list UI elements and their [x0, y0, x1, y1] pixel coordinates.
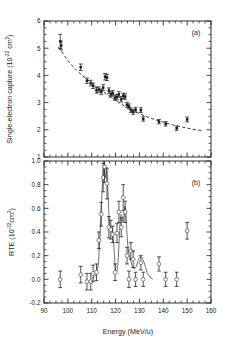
panel-a: 123456 — [37, 17, 211, 160]
data-point — [97, 238, 101, 242]
data-point — [113, 270, 117, 274]
data-point — [119, 225, 123, 229]
data-point — [95, 89, 98, 92]
panel-b-y-tick-label: 0.0 — [32, 276, 41, 283]
panel-b-y-tick-label: 0.4 — [32, 228, 41, 235]
data-point — [118, 93, 121, 96]
panel-a-y-axis-title: Single-electron capture (10-22 cm2) — [5, 34, 14, 144]
x-tick-label: 160 — [206, 307, 217, 314]
two-panel-scientific-plot: 123456 -0.20.00.20.40.60.81.090100110120… — [0, 0, 231, 343]
data-point — [105, 182, 109, 186]
panel-a-ylabel-tail: cm — [5, 39, 14, 51]
data-point — [117, 210, 121, 214]
data-point — [79, 273, 83, 277]
rte-data-point-group — [157, 257, 161, 271]
data-point — [121, 196, 125, 200]
figure-container: 123456 -0.20.00.20.40.60.81.090100110120… — [0, 0, 231, 343]
rte-data-point-group — [113, 264, 117, 281]
data-point — [128, 105, 131, 108]
data-point — [164, 123, 167, 126]
panel-a-y-tick-label: 3 — [37, 99, 41, 106]
panel-b-ylabel-tail: cm — [7, 213, 16, 223]
rte-data-point-group — [85, 273, 89, 290]
x-tick-label: 140 — [158, 307, 169, 314]
panel-a-data — [58, 34, 201, 130]
data-point — [86, 80, 89, 83]
rte-data-point-group — [185, 223, 189, 240]
panel-b-ylabel-close: ) — [7, 208, 16, 210]
data-point — [111, 92, 114, 95]
data-point — [125, 254, 129, 258]
data-point — [140, 109, 143, 112]
panel-b-ylabel-text: RTE (10 — [7, 229, 16, 256]
panel-a-label: (a) — [192, 29, 201, 37]
panel-b-y-tick-label: 0.6 — [32, 205, 41, 212]
capture-data-point-group — [107, 88, 111, 93]
panel-a-y-tick-label: 6 — [37, 17, 41, 24]
data-point — [131, 257, 135, 261]
x-axis-title: Energy (MeV/u) — [103, 327, 153, 336]
data-point — [142, 118, 145, 121]
rte-data-point-group — [91, 265, 95, 282]
data-point — [158, 120, 161, 123]
x-tick-label: 100 — [63, 307, 74, 314]
panel-a-frame — [44, 21, 211, 157]
x-tick-label: 120 — [110, 307, 121, 314]
panel-b-y-tick-label: -0.2 — [29, 299, 40, 306]
data-point — [175, 127, 178, 130]
capture-data-point-group — [79, 64, 83, 71]
panel-b-y-tick-label: 0.2 — [32, 252, 41, 259]
capture-fit-curve — [58, 47, 201, 131]
svg-text:RTE (10-22cm2): RTE (10-22cm2) — [7, 208, 16, 256]
panel-a-y-tick-label: 2 — [37, 126, 41, 133]
data-point — [164, 277, 168, 281]
data-point — [139, 261, 143, 265]
panel-b-y-tick-label: 1.0 — [32, 157, 41, 164]
data-point — [106, 76, 109, 79]
data-point — [111, 232, 115, 236]
x-tick-label: 130 — [134, 307, 145, 314]
data-point — [186, 118, 189, 121]
data-point — [102, 86, 105, 89]
data-point — [185, 229, 189, 233]
rte-data-point-group — [99, 202, 103, 226]
rte-data-point-group — [164, 272, 168, 286]
rte-data-point-group — [58, 271, 62, 288]
rte-data-point-group — [175, 272, 179, 286]
data-point — [79, 66, 82, 69]
capture-data-point-group — [141, 117, 145, 121]
panel-b-y-tick-label: 0.8 — [32, 181, 41, 188]
rte-data-point-group — [127, 271, 131, 288]
x-tick-label: 90 — [40, 307, 48, 314]
data-point — [92, 84, 95, 87]
data-point — [134, 108, 137, 111]
x-tick-label: 110 — [87, 307, 98, 314]
data-point — [127, 277, 131, 281]
panel-a-ylabel-text: Single-electron capture (10 — [5, 57, 14, 143]
x-tick-label: 150 — [182, 307, 193, 314]
data-point — [124, 95, 127, 98]
panel-a-ylabel-close: ) — [5, 34, 14, 36]
data-point — [58, 277, 62, 281]
data-point — [134, 277, 138, 281]
panel-b-y-axis-title: RTE (10-22cm2) — [7, 208, 16, 256]
rte-data-point-group — [141, 272, 145, 286]
data-point — [95, 270, 99, 274]
capture-data-point-group — [101, 85, 105, 91]
panel-b-label: (b) — [192, 179, 201, 187]
rte-data-point-group — [79, 266, 83, 283]
data-point — [85, 280, 89, 284]
capture-data-point-group — [139, 108, 143, 113]
panel-b: -0.20.00.20.40.60.81.0901001101201301401… — [29, 152, 216, 314]
capture-data-point-group — [185, 117, 189, 122]
data-point — [157, 262, 161, 266]
rte-data-point-group — [134, 272, 138, 286]
panel-a-y-tick-label: 4 — [37, 72, 41, 79]
data-point — [123, 210, 127, 214]
data-point — [60, 44, 63, 47]
data-point — [115, 231, 119, 235]
svg-text:Single-electron capture (10-22: Single-electron capture (10-22 cm2) — [5, 34, 14, 144]
panel-a-y-tick-label: 5 — [37, 45, 41, 52]
rte-data-point-group — [115, 224, 119, 243]
data-point — [175, 277, 179, 281]
